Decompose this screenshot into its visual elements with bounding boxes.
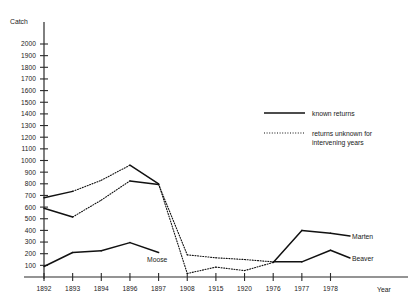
- series-beaver-unknown-segment: [159, 184, 188, 254]
- chart-canvas: 1002003004005006007008009001000110012001…: [0, 0, 413, 306]
- series-marten-unknown-segment: [73, 180, 102, 191]
- x-axis: 1892189318941896189719081915192019761977…: [24, 273, 408, 293]
- series-beaver-known-segment: [44, 208, 73, 217]
- legend-label-known-returns: known returns: [312, 110, 355, 117]
- y-tick-label: 1100: [21, 145, 36, 152]
- y-tick-label: 1800: [21, 64, 36, 71]
- y-tick-label: 1600: [21, 87, 36, 94]
- y-axis-title: Catch: [10, 18, 28, 25]
- series-beaver-known-segment: [302, 250, 331, 262]
- y-tick-label: 800: [25, 180, 37, 187]
- x-tick-label: 1976: [266, 285, 281, 292]
- series-beaver-unknown-segment: [101, 181, 130, 200]
- series-moose-known-segment: [130, 243, 159, 253]
- series-beaver: [44, 181, 331, 262]
- y-tick-label: 300: [25, 238, 37, 245]
- series-moose-known-segment: [73, 251, 102, 253]
- x-tick-label: 1978: [323, 285, 338, 292]
- y-tick-label: 500: [25, 215, 37, 222]
- y-tick-label: 1900: [21, 52, 36, 59]
- x-tick-label: 1893: [65, 285, 80, 292]
- x-tick-label: 1908: [180, 285, 195, 292]
- y-tick-label: 700: [25, 192, 37, 199]
- series-marten-known-segment: [302, 230, 331, 233]
- x-tick-label: 1897: [151, 285, 166, 292]
- series-moose-known-segment: [101, 243, 130, 251]
- series-marten-unknown-segment: [187, 267, 216, 273]
- series-label-marten: Marten: [352, 233, 373, 240]
- x-axis-tick-labels: 1892189318941896189719081915192019761977…: [36, 285, 338, 292]
- series-beaver-unknown-segment: [245, 260, 274, 262]
- y-tick-label: 100: [25, 262, 37, 269]
- series-plot-area: [44, 165, 350, 273]
- x-tick-label: 1892: [36, 285, 51, 292]
- x-axis-title: Year: [377, 286, 391, 293]
- y-tick-label: 1500: [21, 99, 36, 106]
- series-marten-unknown-segment: [245, 262, 274, 270]
- series-label-beaver: Beaver: [352, 255, 374, 262]
- y-axis-tick-labels: 1002003004005006007008009001000110012001…: [21, 40, 36, 268]
- series-marten: [44, 165, 331, 273]
- catch-by-year-line-chart: 1002003004005006007008009001000110012001…: [0, 0, 413, 306]
- legend-label-unknown-returns-line2: intervening years: [312, 139, 364, 147]
- series-moose-known-segment: [44, 253, 73, 267]
- y-tick-label: 600: [25, 204, 37, 211]
- chart-legend: known returns returns unknown for interv…: [264, 110, 373, 147]
- y-tick-label: 1400: [21, 110, 36, 117]
- marten-leader: [331, 233, 351, 236]
- y-tick-label: 2000: [21, 40, 36, 47]
- x-tick-label: 1894: [94, 285, 109, 292]
- y-tick-label: 1300: [21, 122, 36, 129]
- y-tick-label: 1000: [21, 157, 36, 164]
- y-tick-label: 400: [25, 227, 37, 234]
- y-axis: 1002003004005006007008009001000110012001…: [10, 18, 48, 279]
- series-moose: [44, 243, 159, 267]
- x-tick-label: 1920: [237, 285, 252, 292]
- series-label-moose: Moose: [147, 256, 168, 263]
- series-marten-known-segment: [273, 230, 302, 262]
- x-tick-label: 1977: [294, 285, 309, 292]
- series-beaver-unknown-segment: [187, 255, 216, 258]
- series-marten-unknown-segment: [101, 165, 130, 180]
- series-inline-labels: Marten Beaver Moose: [147, 233, 374, 263]
- series-beaver-unknown-segment: [73, 200, 102, 217]
- y-tick-label: 1200: [21, 134, 36, 141]
- series-marten-known-segment: [44, 191, 73, 197]
- legend-label-unknown-returns-line1: returns unknown for: [312, 130, 373, 137]
- beaver-leader: [331, 250, 351, 258]
- x-tick-label: 1896: [122, 285, 137, 292]
- y-tick-label: 200: [25, 250, 37, 257]
- y-tick-label: 1700: [21, 75, 36, 82]
- y-tick-label: 900: [25, 169, 37, 176]
- x-tick-label: 1915: [208, 285, 223, 292]
- series-beaver-unknown-segment: [216, 258, 245, 260]
- series-marten-unknown-segment: [216, 267, 245, 270]
